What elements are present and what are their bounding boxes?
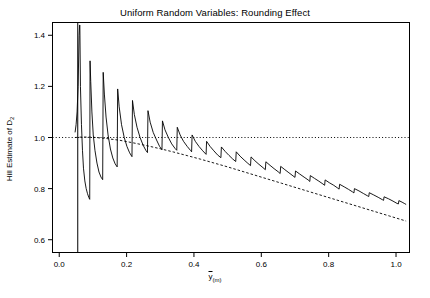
plot-svg: 0.00.20.40.60.81.00.60.81.01.21.4 bbox=[0, 0, 430, 298]
x-axis-tick-label: 1.0 bbox=[390, 260, 402, 269]
x-axis-tick-label: 0.0 bbox=[54, 260, 66, 269]
y-axis-tick-label: 1.2 bbox=[34, 82, 46, 91]
smooth-dashed-reference bbox=[75, 137, 406, 221]
y-axis-tick-label: 0.6 bbox=[34, 236, 46, 245]
y-axis-tick-label: 1.4 bbox=[34, 31, 46, 40]
reference-lines-group bbox=[53, 23, 410, 253]
plot-frame bbox=[53, 23, 410, 253]
ticks-group: 0.00.20.40.60.81.00.60.81.01.21.4 bbox=[34, 31, 402, 269]
x-axis-tick-label: 0.6 bbox=[256, 260, 268, 269]
x-axis-tick-label: 0.4 bbox=[188, 260, 200, 269]
y-axis-tick-label: 0.8 bbox=[34, 185, 46, 194]
axes-group bbox=[53, 23, 410, 253]
data-series-group bbox=[75, 25, 406, 221]
y-axis-tick-label: 1.0 bbox=[34, 134, 46, 143]
x-axis-tick-label: 0.2 bbox=[121, 260, 133, 269]
chart-container: Uniform Random Variables: Rounding Effec… bbox=[0, 0, 430, 298]
hill-estimate-sawtooth bbox=[75, 25, 406, 204]
x-axis-tick-label: 0.8 bbox=[323, 260, 335, 269]
